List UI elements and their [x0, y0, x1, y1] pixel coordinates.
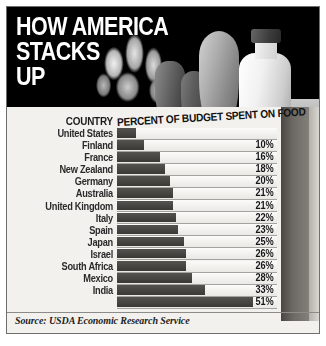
row-bar [117, 188, 173, 198]
infographic-root: HOW AMERICA STACKS UP COUNTRY PERCENT OF… [0, 0, 326, 346]
row-track [117, 128, 277, 140]
row-track [117, 188, 277, 200]
chart-row: Germany20% [7, 175, 319, 187]
row-percent-label: 26% [255, 248, 273, 260]
row-country-label: India [20, 284, 113, 296]
panel-shadow [281, 107, 309, 321]
row-percent-label: 51% [255, 296, 273, 308]
row-percent-label: 21% [255, 187, 273, 199]
chart-row: Mexico28% [7, 272, 319, 284]
row-country-label: Spain [20, 224, 113, 236]
chart-row: 51% [7, 296, 319, 308]
row-track [117, 176, 277, 188]
row-percent-label: 22% [255, 212, 273, 224]
row-track [117, 212, 277, 224]
source-divider [7, 312, 319, 313]
chart-row: United Kingdom21% [7, 200, 319, 212]
row-country-label: South Africa [20, 260, 113, 272]
column-header-percent: PERCENT OF BUDGET SPENT ON FOOD [117, 105, 306, 128]
row-track [117, 200, 277, 212]
row-percent-label: 10% [255, 139, 273, 151]
row-country-label: United Kingdom [20, 200, 113, 212]
source-note: Source: USDA Economic Research Service [15, 315, 190, 326]
row-bar [117, 176, 170, 186]
row-bar [117, 237, 184, 247]
row-country-label: Mexico [20, 272, 113, 284]
chart-rows: United StatesFinland10%France16%New Zeal… [7, 127, 319, 308]
row-bar [117, 201, 173, 211]
row-percent-label: 25% [255, 236, 273, 248]
infographic-frame: HOW AMERICA STACKS UP COUNTRY PERCENT OF… [6, 6, 320, 334]
milk-bottle-cap [251, 29, 281, 43]
row-percent-label: 28% [255, 272, 273, 284]
chart-row: Finland10% [7, 139, 319, 151]
row-bar [117, 297, 253, 307]
row-country-label: Japan [20, 236, 113, 248]
row-track [117, 297, 277, 309]
row-bar [117, 249, 186, 259]
chart-row: Israel26% [7, 248, 319, 260]
row-track [117, 140, 277, 152]
chart-row: India33% [7, 284, 319, 296]
row-bar [117, 164, 165, 174]
chart-panel: COUNTRY PERCENT OF BUDGET SPENT ON FOOD … [7, 107, 319, 334]
row-track [117, 261, 277, 273]
row-bar [117, 213, 176, 223]
row-percent-label: 33% [255, 284, 273, 296]
row-bar [117, 225, 178, 235]
baguette-image [199, 31, 239, 115]
row-percent-label: 18% [255, 163, 273, 175]
chart-row: Italy22% [7, 212, 319, 224]
row-country-label: Finland [20, 139, 113, 151]
row-percent-label: 21% [255, 200, 273, 212]
row-country-label: Germany [20, 175, 113, 187]
chart-row: South Africa26% [7, 260, 319, 272]
row-country-label: Italy [20, 212, 113, 224]
header-band: HOW AMERICA STACKS UP [7, 7, 319, 115]
row-percent-label: 23% [255, 224, 273, 236]
row-track [117, 248, 277, 260]
row-bar [117, 152, 160, 162]
row-bar [117, 128, 136, 138]
page-title: HOW AMERICA STACKS UP [16, 14, 168, 89]
row-percent-label: 20% [255, 175, 273, 187]
row-track [117, 164, 277, 176]
row-bar [117, 285, 205, 295]
chart-row: Australia21% [7, 187, 319, 199]
row-country-label: Australia [20, 187, 113, 199]
row-country-label: United States [20, 127, 113, 139]
chart-row: Japan25% [7, 236, 319, 248]
row-track [117, 273, 277, 285]
chart-row: New Zealand18% [7, 163, 319, 175]
row-bar [117, 273, 192, 283]
row-country-label: Israel [20, 248, 113, 260]
column-header-country: COUNTRY [18, 115, 113, 127]
panel-edge [309, 107, 319, 321]
row-track [117, 285, 277, 297]
chart-row: United States [7, 127, 319, 139]
row-country-label: France [20, 151, 113, 163]
row-bar [117, 140, 144, 150]
row-bar [117, 261, 186, 271]
row-percent-label: 26% [255, 260, 273, 272]
row-track [117, 224, 277, 236]
chart-row: Spain23% [7, 224, 319, 236]
row-country-label: New Zealand [20, 163, 113, 175]
chart-row: France16% [7, 151, 319, 163]
row-track [117, 236, 277, 248]
row-track [117, 152, 277, 164]
row-percent-label: 16% [255, 151, 273, 163]
